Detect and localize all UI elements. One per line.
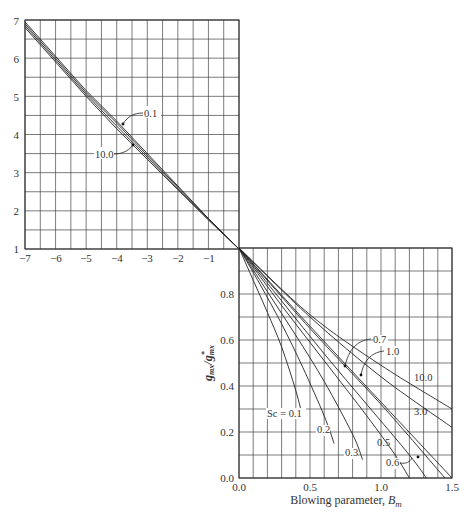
lower-x-tick: 0.5 bbox=[303, 481, 317, 493]
curve-label-0.1: 0.1 bbox=[144, 108, 157, 119]
leader-dot bbox=[417, 456, 420, 459]
curve-label-sc-0.1: Sc = 0.1 bbox=[267, 408, 302, 419]
curve-label-3.0: 3.0 bbox=[414, 406, 427, 417]
mass-transfer-chart: 1 2 3 4 5 6 7 −7 −6 −5 −4 −3 −2 −1 0.1 1… bbox=[0, 0, 471, 518]
curve-label-0.3: 0.3 bbox=[345, 447, 358, 458]
upper-x-tick: −1 bbox=[203, 252, 215, 264]
lower-y-tick: 0.2 bbox=[220, 426, 234, 438]
upper-panel: 1 2 3 4 5 6 7 −7 −6 −5 −4 −3 −2 −1 0.1 1… bbox=[14, 15, 240, 264]
upper-grid bbox=[25, 20, 239, 249]
curve bbox=[239, 248, 452, 409]
leader-dot bbox=[132, 144, 135, 147]
upper-y-tick: 2 bbox=[14, 205, 20, 217]
curve-label-0.7: 0.7 bbox=[373, 334, 386, 345]
curve-label-0.5: 0.5 bbox=[377, 437, 390, 448]
curve-label-0.6: 0.6 bbox=[386, 457, 399, 468]
lower-x-ticks: 0.0 0.5 1.0 1.5 bbox=[232, 481, 459, 493]
lower-x-tick: 1.5 bbox=[445, 481, 459, 493]
upper-y-ticks: 1 2 3 4 5 6 7 bbox=[14, 15, 20, 255]
lower-y-tick: 0.6 bbox=[220, 334, 234, 346]
y-axis-label: gmx/g*mx bbox=[200, 345, 216, 382]
leader-line bbox=[123, 113, 143, 124]
upper-x-tick: −4 bbox=[111, 252, 123, 264]
upper-x-tick: −7 bbox=[19, 252, 31, 264]
upper-y-tick: 5 bbox=[14, 91, 20, 103]
curve bbox=[239, 248, 303, 418]
curve-label-0.2: 0.2 bbox=[317, 424, 330, 435]
upper-x-tick: −5 bbox=[80, 252, 92, 264]
lower-x-tick: 1.0 bbox=[374, 481, 388, 493]
leader-dot bbox=[122, 123, 125, 126]
x-axis-label: Blowing parameter, Bm bbox=[290, 493, 402, 509]
lower-x-tick: 0.0 bbox=[232, 481, 246, 493]
leader-dot bbox=[344, 365, 347, 368]
upper-y-tick: 4 bbox=[14, 129, 20, 141]
curve-label-10.0: 10.0 bbox=[95, 149, 113, 160]
upper-y-tick: 3 bbox=[14, 167, 20, 179]
upper-x-tick: −2 bbox=[172, 252, 184, 264]
curve-label-1.0: 1.0 bbox=[386, 346, 399, 357]
curve bbox=[239, 248, 452, 427]
upper-y-tick: 7 bbox=[14, 15, 20, 27]
lower-panel: 0.0 0.2 0.4 0.6 0.8 0.0 0.5 1.0 1.5 Blow… bbox=[200, 248, 459, 509]
lower-y-ticks: 0.0 0.2 0.4 0.6 0.8 bbox=[220, 288, 234, 484]
upper-x-ticks: −7 −6 −5 −4 −3 −2 −1 bbox=[19, 252, 215, 264]
upper-x-tick: −6 bbox=[50, 252, 62, 264]
curve-label-10.0: 10.0 bbox=[414, 372, 432, 383]
upper-y-tick: 6 bbox=[14, 53, 20, 65]
leader-dot bbox=[360, 374, 363, 377]
lower-y-tick: 0.4 bbox=[220, 380, 234, 392]
upper-x-tick: −3 bbox=[141, 252, 153, 264]
leader-line bbox=[400, 458, 412, 463]
lower-annotations: Sc = 0.1 0.2 0.3 0.5 0.6 0.7 1.0 10.0 3.… bbox=[266, 334, 432, 469]
lower-y-tick: 0.8 bbox=[220, 288, 234, 300]
